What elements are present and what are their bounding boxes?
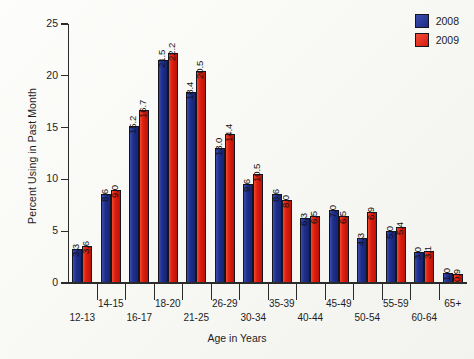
x-tick-mark xyxy=(182,284,183,300)
x-category-label-40-44: 40-44 xyxy=(297,312,323,323)
bar-30-34-2008 xyxy=(243,184,253,283)
y-tick-mark xyxy=(61,179,68,180)
bar-16-17-2008 xyxy=(129,126,139,283)
legend-label-2008: 2008 xyxy=(436,15,459,27)
bar-value-label: 18.4 xyxy=(184,82,195,100)
legend: 2008 2009 xyxy=(415,14,459,47)
y-tick-mark xyxy=(61,231,68,232)
bar-40-44-2008 xyxy=(300,218,310,283)
bar-chart: Percent Using in Past Month 0510152025 3… xyxy=(0,0,474,359)
x-category-label-35-39: 35-39 xyxy=(269,298,295,309)
bar-value-label: 6.5 xyxy=(337,211,348,224)
bar-50-54-2009 xyxy=(367,212,377,283)
x-tick-mark xyxy=(439,284,440,300)
bar-40-44-2009 xyxy=(310,216,320,283)
y-tick-mark xyxy=(61,23,68,24)
bar-value-label: 9.0 xyxy=(109,185,120,198)
bar-18-20-2009 xyxy=(168,53,178,283)
bar-value-label: 6.5 xyxy=(308,211,319,224)
x-category-label-12-13: 12-13 xyxy=(69,312,95,323)
bar-value-label: 10.5 xyxy=(251,164,262,182)
x-category-label-55-59: 55-59 xyxy=(383,298,409,309)
bar-value-label: 5.4 xyxy=(394,222,405,235)
x-category-label-30-34: 30-34 xyxy=(240,312,266,323)
x-tick-mark xyxy=(125,284,126,300)
x-category-label-60-64: 60-64 xyxy=(411,312,437,323)
legend-swatch-2008-icon xyxy=(415,14,429,28)
bar-14-15-2009 xyxy=(111,190,121,283)
bar-value-label: 22.2 xyxy=(166,43,177,61)
legend-item-2009: 2009 xyxy=(415,33,459,47)
x-tick-mark xyxy=(239,284,240,300)
x-category-label-18-20: 18-20 xyxy=(155,298,181,309)
x-category-label-65plus: 65+ xyxy=(444,298,461,309)
bar-26-29-2009 xyxy=(225,134,235,283)
bar-value-label: 0.9 xyxy=(451,269,462,282)
bar-21-25-2009 xyxy=(196,71,206,283)
bar-55-59-2009 xyxy=(396,227,406,283)
x-tick-mark xyxy=(296,284,297,300)
bar-14-15-2008 xyxy=(101,194,111,283)
x-axis-title: Age in Years xyxy=(0,332,474,344)
x-category-label-50-54: 50-54 xyxy=(354,312,380,323)
y-axis-title: Percent Using in Past Month xyxy=(26,36,38,276)
y-tick-label: 15 xyxy=(40,121,58,133)
plot-area: 3.33.68.69.015.216.721.522.218.420.513.0… xyxy=(68,24,467,283)
bar-value-label: 14.4 xyxy=(223,124,234,142)
y-tick-mark xyxy=(61,127,68,128)
bar-value-label: 16.7 xyxy=(137,100,148,118)
bar-45-49-2009 xyxy=(339,216,349,283)
y-tick-label: 25 xyxy=(40,17,58,29)
y-tick-label: 20 xyxy=(40,69,58,81)
legend-item-2008: 2008 xyxy=(415,14,459,28)
bar-value-label: 4.3 xyxy=(355,233,366,246)
bar-30-34-2009 xyxy=(253,174,263,283)
x-category-label-14-15: 14-15 xyxy=(98,298,124,309)
legend-label-2009: 2009 xyxy=(436,34,459,46)
bar-value-label: 3.6 xyxy=(80,241,91,254)
y-tick-mark xyxy=(61,75,68,76)
bar-18-20-2008 xyxy=(158,60,168,283)
x-category-label-45-49: 45-49 xyxy=(326,298,352,309)
x-category-label-26-29: 26-29 xyxy=(212,298,238,309)
x-category-label-21-25: 21-25 xyxy=(183,312,209,323)
bar-26-29-2008 xyxy=(215,148,225,283)
bar-value-label: 3.1 xyxy=(422,246,433,259)
y-tick-label: 10 xyxy=(40,172,58,184)
y-tick-label: 5 xyxy=(40,224,58,236)
legend-swatch-2009-icon xyxy=(415,33,429,47)
bar-value-label: 8.0 xyxy=(280,195,291,208)
bar-value-label: 6.9 xyxy=(365,206,376,219)
x-category-label-16-17: 16-17 xyxy=(126,312,152,323)
y-tick-label: 0 xyxy=(40,276,58,288)
bar-16-17-2009 xyxy=(139,110,149,283)
bar-21-25-2008 xyxy=(186,92,196,283)
x-tick-mark xyxy=(410,284,411,300)
y-tick-mark xyxy=(61,282,68,283)
bar-value-label: 20.5 xyxy=(194,60,205,78)
bar-35-39-2009 xyxy=(282,200,292,283)
x-tick-mark xyxy=(353,284,354,300)
